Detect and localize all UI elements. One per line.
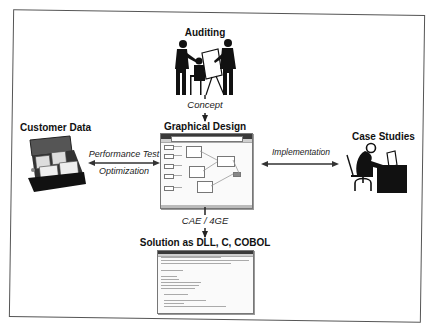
card-file-box-icon — [26, 136, 88, 192]
auditing-label: Auditing — [165, 27, 245, 38]
graphical-design-label: Graphical Design — [150, 121, 260, 132]
performance-test-label: Performance Test — [84, 149, 164, 159]
diagram-editor-window-icon — [160, 133, 253, 209]
solution-label: Solution as DLL, C, COBOL — [135, 237, 275, 248]
cae-4ge-label: CAE / 4GE — [170, 215, 240, 226]
implementation-arrow-icon — [261, 158, 339, 170]
code-listing-window-icon — [157, 250, 254, 314]
optimization-label: Optimization — [84, 166, 164, 176]
concept-label: Concept — [170, 99, 240, 110]
person-at-desk-icon — [345, 143, 410, 195]
implementation-label: Implementation — [262, 147, 340, 157]
customer-data-label: Customer Data — [20, 122, 91, 133]
people-at-drafting-table-icon — [172, 39, 242, 97]
case-studies-label: Case Studies — [352, 131, 415, 142]
